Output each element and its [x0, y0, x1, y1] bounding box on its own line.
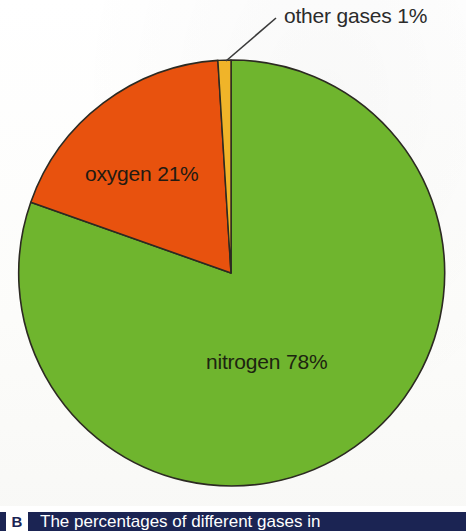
pie-label-other-gases: other gases 1% [284, 4, 427, 28]
figure-caption-text: The percentages of different gases in [40, 512, 320, 531]
pie-label-nitrogen: nitrogen 78% [206, 350, 327, 374]
figure-caption-badge: B [6, 512, 28, 531]
pie-label-oxygen: oxygen 21% [85, 162, 199, 186]
pie-chart-graphic [0, 0, 466, 531]
leader-line-other-gases [226, 18, 276, 61]
figure-caption-bar: B The percentages of different gases in [0, 512, 466, 531]
pie-chart-figure: other gases 1% oxygen 21% nitrogen 78% B… [0, 0, 466, 531]
